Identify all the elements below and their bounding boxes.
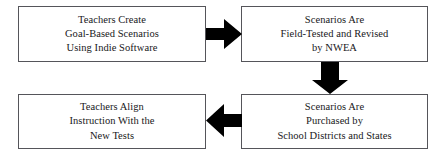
flow-box-field-tested: Scenarios Are Field-Tested and Revised b… [241, 6, 428, 62]
flow-box-purchased: Scenarios Are Purchased by School Distri… [241, 94, 428, 149]
flow-box-label: Scenarios Are Purchased by School Distri… [273, 100, 395, 143]
flow-box-label: Teachers Align Instruction With the New … [66, 100, 159, 143]
arrow-left-icon [206, 104, 242, 137]
arrow-down-icon [312, 62, 348, 94]
flowchart-diagram: Teachers Create Goal-Based Scenarios Usi… [0, 0, 445, 159]
flow-box-teachers-align: Teachers Align Instruction With the New … [18, 94, 206, 149]
flow-box-teachers-create: Teachers Create Goal-Based Scenarios Usi… [18, 6, 206, 62]
flow-box-label: Teachers Create Goal-Based Scenarios Usi… [61, 13, 163, 56]
arrow-right-icon [206, 19, 242, 49]
flow-box-label: Scenarios Are Field-Tested and Revised b… [277, 13, 393, 56]
